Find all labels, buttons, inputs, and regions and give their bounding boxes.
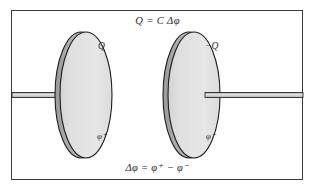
equation-charge-capacitance: Q = C Δφ (0, 15, 315, 26)
left-plate-potential-label: φ⁺ (97, 131, 107, 141)
capacitor-figure: Q = C Δφ Δφ = φ⁺ − φ⁻ Q −Q φ⁺ φ⁻ (0, 0, 315, 189)
right-wire (205, 93, 303, 98)
right-plate-charge-label: −Q (205, 41, 218, 51)
right-plate-potential-label: φ⁻ (206, 131, 216, 141)
equation-potential-difference: Δφ = φ⁺ − φ⁻ (0, 161, 315, 173)
left-plate-charge-label: Q (98, 41, 105, 51)
